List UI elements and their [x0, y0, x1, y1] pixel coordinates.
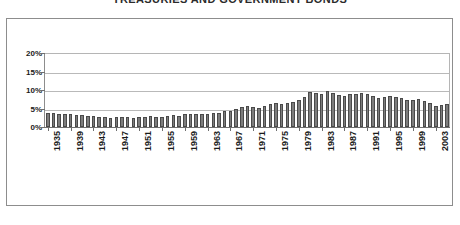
y-tick-mark: [41, 127, 45, 128]
bar: [405, 100, 409, 127]
x-tick-label: 1975: [280, 131, 290, 151]
x-tick-label: 1979: [303, 131, 313, 151]
chart-title: TREASURIES AND GOVERNMENT BONDS: [0, 0, 460, 5]
x-tick-label: 1991: [371, 131, 381, 151]
bar: [343, 96, 347, 127]
bar: [103, 117, 107, 127]
y-tick-mark: [41, 53, 45, 54]
bar: [137, 117, 141, 127]
bar: [143, 117, 147, 127]
bar: [206, 114, 210, 127]
x-tick-label: 1939: [75, 131, 85, 151]
bar: [440, 105, 444, 127]
x-tick-label: 1943: [97, 131, 107, 151]
bar: [286, 103, 290, 127]
bar: [423, 101, 427, 127]
bar: [377, 98, 381, 127]
bar: [291, 102, 295, 127]
bar: [149, 116, 153, 127]
bar: [200, 114, 204, 127]
bar: [366, 94, 370, 127]
x-tick-label: 1935: [52, 131, 62, 151]
x-tick-label: 1995: [394, 131, 404, 151]
bar: [246, 106, 250, 127]
bar: [80, 115, 84, 127]
bar: [177, 116, 181, 127]
bar: [411, 100, 415, 127]
bar: [92, 116, 96, 127]
bar: [274, 103, 278, 127]
bar: [97, 117, 101, 127]
x-tick-label: 1971: [257, 131, 267, 151]
bar: [75, 115, 79, 127]
y-tick-mark: [41, 72, 45, 73]
bar: [263, 106, 267, 127]
bar: [445, 104, 449, 127]
bar: [394, 97, 398, 127]
bar: [383, 97, 387, 127]
x-tick-label: 1959: [189, 131, 199, 151]
bar: [115, 117, 119, 127]
x-tick-label: 1967: [234, 131, 244, 151]
bar: [86, 116, 90, 127]
bar: [183, 114, 187, 127]
x-tick-label: 1947: [120, 131, 130, 151]
bar: [189, 114, 193, 127]
bar: [69, 114, 73, 127]
bar: [326, 91, 330, 127]
bar: [314, 93, 318, 127]
y-tick-label: 5%: [2, 104, 42, 113]
bar: [52, 113, 56, 127]
bar: [297, 100, 301, 127]
bar: [240, 107, 244, 127]
bar: [223, 111, 227, 127]
bar: [166, 116, 170, 127]
bar: [417, 99, 421, 127]
bar: [360, 93, 364, 127]
bar: [132, 118, 136, 127]
bar: [354, 94, 358, 127]
bar: [371, 96, 375, 127]
y-tick-label: 0%: [2, 123, 42, 132]
bar: [160, 117, 164, 127]
bar: [212, 113, 216, 127]
x-tick-label: 1983: [326, 131, 336, 151]
bar: [269, 104, 273, 127]
bar: [57, 114, 61, 127]
bar: [217, 113, 221, 127]
x-tick-label: 1963: [212, 131, 222, 151]
bar: [194, 114, 198, 127]
bar: [234, 109, 238, 127]
bar: [337, 95, 341, 127]
bar: [388, 96, 392, 127]
bar: [434, 106, 438, 127]
x-tick-label: 2003: [440, 131, 450, 151]
bar: [154, 117, 158, 127]
y-tick-label: 15%: [2, 67, 42, 76]
y-tick-mark: [41, 90, 45, 91]
bar: [120, 117, 124, 127]
x-tick-label: 1955: [166, 131, 176, 151]
bar: [46, 113, 50, 127]
y-axis-labels: 20%15%10%5%0%: [0, 0, 42, 225]
bar: [172, 115, 176, 127]
x-tick-label: 1987: [348, 131, 358, 151]
y-tick-mark: [41, 109, 45, 110]
x-tick-label: 1999: [417, 131, 427, 151]
bar: [126, 117, 130, 127]
bar: [63, 114, 67, 127]
bar: [251, 107, 255, 127]
bar: [331, 93, 335, 127]
x-tick-label: 1951: [143, 131, 153, 151]
x-axis-labels: 1935193919431947195119551959196319671971…: [45, 131, 450, 191]
bar: [109, 118, 113, 127]
bar: [320, 94, 324, 127]
bar: [280, 104, 284, 127]
bar-series: [45, 53, 450, 127]
bar: [428, 103, 432, 127]
y-tick-label: 20%: [2, 49, 42, 58]
bar: [308, 92, 312, 127]
bar: [400, 98, 404, 127]
bar: [348, 94, 352, 127]
bar: [257, 108, 261, 127]
